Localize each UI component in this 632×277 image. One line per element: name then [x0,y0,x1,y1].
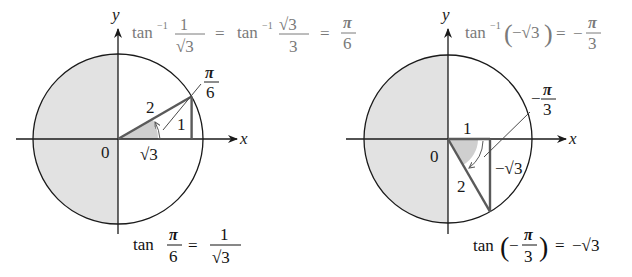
right-angle-label-numerator: π [543,81,553,98]
left-top-frac1-denominator: √3 [176,37,194,56]
left-bottom-equals: = [188,236,198,255]
left-bottom-value-numerator: 1 [220,225,229,244]
right-angle-label-sign: − [531,89,541,108]
left-top-frac2-denominator: 3 [289,37,298,56]
right-top-result-numerator: π [588,14,598,31]
left-top-result-numerator: π [343,14,353,31]
left-bottom-tan: tan [133,235,154,254]
right-bottom-right-paren: ) [539,231,548,262]
left-y-axis-label: y [110,5,120,24]
left-top-exponent: −1 [157,20,168,31]
right-bottom-arg-numerator: π [524,226,534,243]
inverse-tangent-figure: y x 0 2 1 √3 π 6 tan −1 1 √3 = tan −1 √3… [0,0,632,277]
figure-canvas: y x 0 2 1 √3 π 6 tan −1 1 √3 = tan −1 √3… [0,0,632,277]
right-y-axis-label: y [440,5,450,24]
left-angle-label-numerator: π [205,64,215,81]
left-bottom-arg-denominator: 6 [169,247,178,266]
right-top-result-denominator: 3 [588,34,597,53]
right-x-axis-label: x [568,129,577,148]
right-bottom-tan: tan [473,236,494,255]
right-bottom-formula: tan ( − π 3 ) = −√3 [473,226,599,266]
right-opposite-label: −√3 [495,159,522,178]
right-bottom-equals: = [555,236,565,255]
right-angle-leader-line [484,112,530,157]
left-labels: y x 0 2 1 √3 π 6 [101,5,248,164]
left-x-axis-label: x [239,129,248,148]
left-bottom-formula: tan π 6 = 1 √3 [133,225,241,267]
left-top-equals-2: = [320,24,330,43]
left-hypotenuse-label: 2 [146,98,155,117]
left-top-tan: tan [132,23,153,42]
right-origin-label: 0 [430,147,439,166]
right-top-equals: = [556,24,566,43]
right-angle-label-denominator: 3 [543,100,552,119]
left-adjacent-label: √3 [140,145,158,164]
left-unit-circle-diagram [16,29,237,234]
left-top-formula: tan −1 1 √3 = tan −1 √3 3 = π 6 [132,14,356,56]
left-top-exponent-2: −1 [262,20,273,31]
right-adjacent-label: 1 [463,119,472,138]
right-top-right-paren: ) [544,19,553,48]
right-bottom-sign: − [509,236,519,255]
right-top-tan: tan [465,23,486,42]
right-top-sign: − [573,24,583,43]
left-top-frac1-numerator: 1 [180,16,188,33]
right-bottom-value: −√3 [572,236,599,255]
left-top-tan-2: tan [237,23,258,42]
left-origin-label: 0 [101,143,110,162]
left-bottom-value-denominator: √3 [212,248,230,267]
right-top-formula: tan −1 ( −√3 ) = − π 3 [465,14,601,53]
left-top-result-denominator: 6 [343,34,352,53]
right-top-exponent: −1 [490,20,501,31]
right-hypotenuse-label: 2 [457,177,466,196]
left-angle-label-denominator: 6 [206,83,215,102]
right-bottom-arg-denominator: 3 [524,247,533,266]
right-angle-wedge [448,139,478,165]
left-bottom-arg-numerator: π [169,226,179,243]
left-opposite-label: 1 [177,115,186,134]
right-unit-circle-diagram [346,29,566,234]
left-top-equals-1: = [215,24,225,43]
right-top-argument: −√3 [512,23,539,42]
right-bottom-left-paren: ( [500,231,509,262]
left-top-frac2-numerator: √3 [279,15,297,34]
